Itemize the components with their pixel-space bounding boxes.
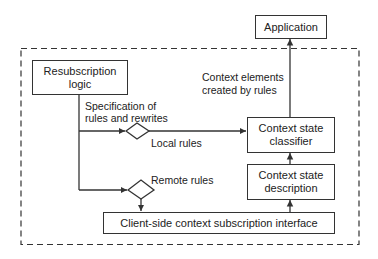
resubscription-label-line1: Resubscription <box>44 65 117 78</box>
client-subscription-interface-node: Client-side context subscription interfa… <box>103 212 335 234</box>
application-node: Application <box>255 15 327 39</box>
application-label: Application <box>264 21 318 34</box>
spec-label-line2: rules and rewrites <box>85 112 168 124</box>
context-elements-label-line1: Context elements <box>202 71 284 83</box>
description-label-line1: Context state <box>259 169 324 182</box>
context-state-description-node: Context state description <box>247 164 335 200</box>
local-rules-decision <box>126 123 149 139</box>
context-elements-label-line2: created by rules <box>202 84 277 96</box>
resubscription-logic-node: Resubscription logic <box>32 60 128 95</box>
resubscription-label-line2: logic <box>69 78 92 91</box>
spec-label-line1: Specification of <box>85 100 156 112</box>
classifier-label-line2: classifier <box>270 135 313 148</box>
client-interface-label: Client-side context subscription interfa… <box>120 217 317 230</box>
local-rules-label: Local rules <box>151 137 202 149</box>
context-state-classifier-node: Context state classifier <box>247 117 335 153</box>
remote-rules-label: Remote rules <box>151 174 213 186</box>
classifier-label-line1: Context state <box>259 122 324 135</box>
description-label-line2: description <box>264 182 317 195</box>
